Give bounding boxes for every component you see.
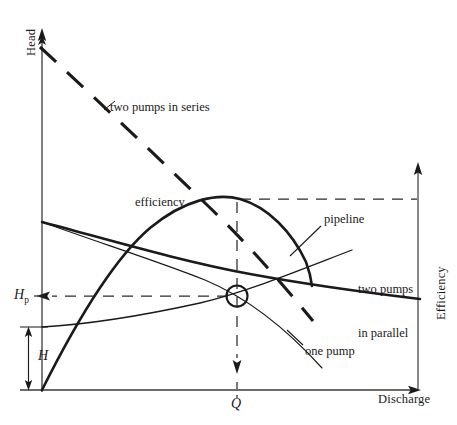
label-head-pump: Hp: [14, 287, 29, 305]
curve-one-pump: [42, 222, 322, 368]
label-one-pump: one pump: [305, 344, 355, 358]
y-axis-head-label: Head: [24, 29, 38, 56]
label-static-head: H: [38, 348, 48, 364]
x-axis-discharge-label: Discharge: [378, 392, 430, 406]
label-two-pumps-in-series: two pumps in series: [110, 100, 210, 114]
y-axis-efficiency-label: Efficiency: [434, 266, 448, 320]
one-pump-leader-line: [287, 330, 303, 345]
label-two-pumps-in-parallel-line1: two pumps: [358, 282, 413, 297]
label-head-pump-subscript: p: [24, 295, 29, 305]
label-discharge-point: Q: [231, 396, 241, 412]
label-efficiency: efficiency: [135, 195, 185, 209]
curve-efficiency: [42, 197, 312, 390]
discharge-guide-arrow: [233, 360, 242, 374]
label-pipeline: pipeline: [324, 212, 364, 226]
label-two-pumps-in-parallel: two pumps in parallel: [358, 252, 413, 370]
label-head-pump-symbol: H: [14, 287, 24, 302]
label-two-pumps-in-parallel-line2: in parallel: [358, 326, 413, 341]
pump-curve-figure: Head Efficiency Discharge two pumps in s…: [0, 0, 457, 425]
